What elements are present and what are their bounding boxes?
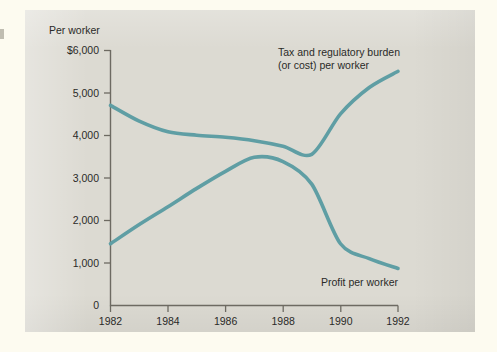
y-tick-label-0: 0 — [93, 299, 99, 311]
x-tick-label-1986: 1986 — [214, 315, 238, 327]
y-axis-ticks — [104, 51, 111, 264]
y-tick-label-3000: 3,000 — [73, 172, 99, 184]
y-tick-label-5000: 5,000 — [73, 87, 99, 99]
line-chart: Per worker $6,000 5,000 4,000 3,000 2,00… — [0, 0, 497, 352]
y-tick-label-2000: 2,000 — [73, 214, 99, 226]
series-line-tax-burden — [111, 71, 399, 155]
figure-root: Per worker $6,000 5,000 4,000 3,000 2,00… — [0, 0, 497, 352]
annotation-profit-line1: Profit per worker — [321, 276, 399, 288]
annotation-tax-burden-line1: Tax and regulatory burden — [278, 46, 400, 58]
x-axis-tick-labels: 1982 1984 1986 1988 1990 1992 — [99, 315, 410, 327]
y-tick-label-4000: 4,000 — [73, 129, 99, 141]
x-tick-label-1982: 1982 — [99, 315, 123, 327]
x-tick-label-1990: 1990 — [329, 315, 353, 327]
x-tick-label-1988: 1988 — [272, 315, 296, 327]
annotation-tax-burden: Tax and regulatory burden (or cost) per … — [278, 46, 400, 71]
y-axis-caption: Per worker — [49, 24, 100, 36]
y-tick-label-1000: 1,000 — [73, 257, 99, 269]
axis-lines — [111, 50, 399, 306]
x-axis-ticks — [111, 306, 399, 313]
y-tick-label-6000: $6,000 — [67, 44, 99, 56]
x-tick-label-1992: 1992 — [386, 315, 410, 327]
y-axis-tick-labels: $6,000 5,000 4,000 3,000 2,000 1,000 0 — [67, 44, 99, 311]
annotation-tax-burden-line2: (or cost) per worker — [278, 59, 370, 71]
x-tick-label-1984: 1984 — [156, 315, 180, 327]
annotation-profit: Profit per worker — [321, 276, 399, 288]
series-line-profit — [111, 157, 399, 269]
